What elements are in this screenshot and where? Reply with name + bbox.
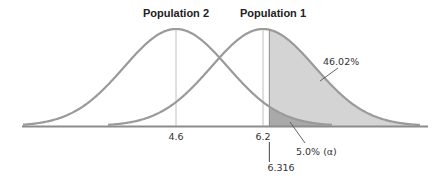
alpha-percent-label: 5.0% (α) [296,146,337,157]
population-2-label: Population 2 [143,7,209,19]
power-percent-label: 46.02% [323,56,359,67]
curve-population-1 [108,29,420,125]
population-1-label: Population 1 [240,7,306,19]
power-chart: Population 2 Population 1 4.6 6.2 6.316 … [0,0,444,184]
tick-label-4-6: 4.6 [168,131,183,142]
tick-label-6-2: 6.2 [255,131,270,142]
tick-label-6-316: 6.316 [267,162,294,173]
